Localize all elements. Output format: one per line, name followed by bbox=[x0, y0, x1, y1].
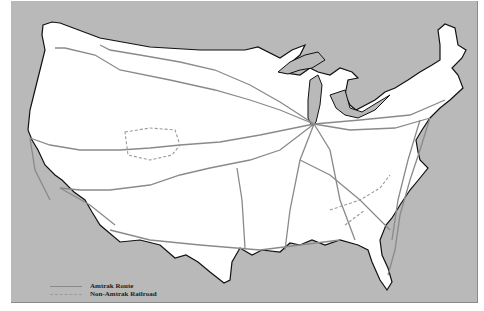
solid-line-icon bbox=[50, 286, 82, 287]
legend-label: Non-Amtrak Railroad bbox=[90, 290, 157, 298]
us-rail-map bbox=[0, 0, 484, 311]
us-landmass bbox=[28, 22, 466, 290]
dashed-line-icon bbox=[50, 294, 82, 295]
legend-label: Amtrak Route bbox=[90, 282, 133, 290]
